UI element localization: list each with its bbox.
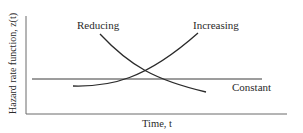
reducing-curve [100,34,206,92]
reducing-label: Reducing [77,19,120,31]
y-axis-label: Hazard rate function, z(t) [7,13,19,114]
constant-label: Constant [232,81,271,93]
increasing-label: Increasing [193,19,239,31]
x-axis-label: Time, t [142,118,172,129]
hazard-rate-chart: Reducing Increasing Constant Time, t Haz… [0,0,303,133]
increasing-curve [73,33,198,86]
